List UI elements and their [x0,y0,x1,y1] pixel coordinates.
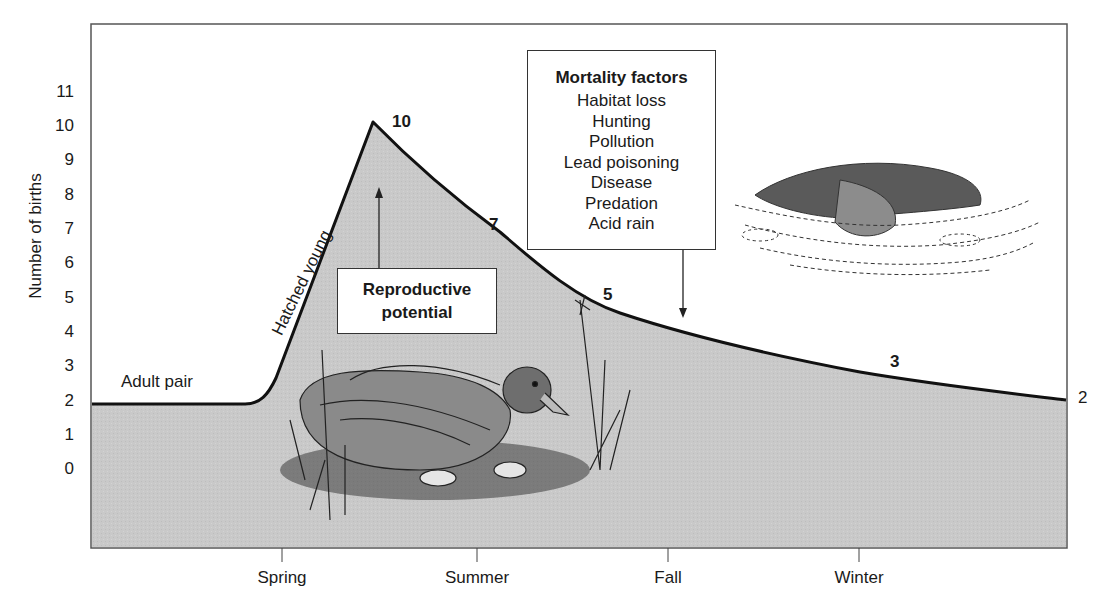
peak-value-label: 10 [392,112,411,132]
xtick-label-summer: Summer [417,568,537,588]
mortality-item: Hunting [528,112,715,133]
y-axis-label: Number of births [26,156,46,316]
ytick-0: 0 [44,459,74,479]
ytick-10: 10 [44,116,74,136]
ytick-7: 7 [44,219,74,239]
value-2-label: 2 [1078,388,1087,408]
ytick-4: 4 [44,322,74,342]
ytick-9: 9 [44,150,74,170]
reproductive-line-1: Reproductive [338,278,496,301]
reproductive-line-2: potential [338,301,496,324]
mortality-factors-box: Mortality factors Habitat loss Hunting P… [527,50,716,250]
ytick-8: 8 [44,185,74,205]
mortality-item: Acid rain [528,214,715,235]
xtick-label-fall: Fall [608,568,728,588]
mortality-item: Predation [528,194,715,215]
adult-pair-label: Adult pair [121,372,193,392]
value-5-label: 5 [603,285,612,305]
xtick-label-winter: Winter [799,568,919,588]
ytick-1: 1 [44,425,74,445]
xtick-label-spring: Spring [222,568,342,588]
ytick-5: 5 [44,288,74,308]
ytick-3: 3 [44,356,74,376]
mortality-item: Pollution [528,132,715,153]
ytick-11: 11 [44,82,74,102]
mortality-item: Disease [528,173,715,194]
reproductive-potential-box: Reproductive potential [337,268,497,334]
mortality-title: Mortality factors [528,68,715,88]
value-7-label: 7 [489,215,498,235]
ytick-2: 2 [44,391,74,411]
ytick-6: 6 [44,253,74,273]
mortality-item: Habitat loss [528,91,715,112]
value-3-label: 3 [890,352,899,372]
mortality-item: Lead poisoning [528,153,715,174]
